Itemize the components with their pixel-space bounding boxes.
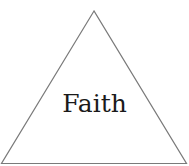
- triangle-shape: [0, 0, 189, 166]
- triangle-label: Faith: [0, 88, 189, 120]
- triangle-diagram: Faith: [0, 0, 189, 166]
